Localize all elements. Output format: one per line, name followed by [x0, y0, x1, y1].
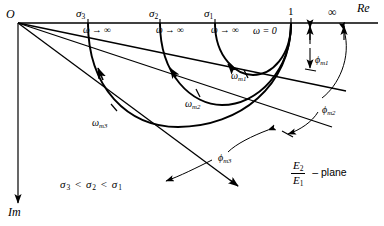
cond-sub-2: 2	[92, 183, 97, 192]
sigma-1-subscript: 1	[209, 12, 213, 21]
plane-fraction-numerator: E2	[291, 160, 305, 174]
omega-inf-label-1: ω → ∞	[211, 26, 239, 36]
omega-m2-label: ωm2	[185, 99, 200, 110]
plane-fraction-denominator: E1	[291, 174, 305, 188]
omega-m1-label: ωm1	[231, 71, 246, 82]
denominator-symbol: E	[293, 174, 300, 186]
phi-m2-subscript: m2	[327, 109, 335, 116]
numerator-subscript: 2	[300, 164, 304, 173]
infinity-arrows	[310, 26, 344, 40]
imaginary-axis-label: Im	[8, 206, 21, 218]
omega-m3-symbol: ω	[92, 117, 99, 128]
origin-label: O	[6, 8, 15, 20]
omega-inf-label-2: ω → ∞	[156, 26, 184, 36]
cond-lt-1: <	[75, 178, 82, 190]
omega-m2-subscript: m2	[192, 103, 200, 110]
infinity-label: ∞	[328, 6, 337, 18]
real-axis-label: Re	[357, 2, 370, 14]
phi-m1-label: ϕm1	[315, 55, 329, 66]
phi-m3-label: ϕm3	[218, 153, 232, 164]
sigma-2-subscript: 2	[154, 12, 158, 21]
phi-m2-label: ϕm2	[322, 105, 336, 116]
omega-m3-subscript: m3	[99, 122, 107, 129]
sigma-ordering-condition: σ3 < σ2 < σ1	[60, 179, 123, 191]
omega-m1-symbol: ω	[231, 70, 238, 81]
cond-sub-3: 3	[66, 183, 71, 192]
sigma-3-subscript: 3	[81, 12, 85, 21]
omega-m2-symbol: ω	[185, 98, 192, 109]
plane-label: E2 E1 – plane	[291, 160, 347, 188]
cond-lt-2: <	[101, 178, 108, 190]
omega-m3-label: ωm3	[92, 118, 107, 129]
omega-m1-subscript: m1	[238, 75, 246, 82]
numerator-symbol: E	[293, 159, 300, 171]
sigma-3-label: σ3	[76, 8, 85, 20]
phi-m3-subscript: m3	[223, 157, 231, 164]
phi-m3-angle-indicator	[166, 130, 268, 181]
unit-point-label: 1	[288, 6, 294, 17]
denominator-subscript: 1	[300, 179, 304, 188]
omega-zero-label: ω = 0	[253, 26, 277, 36]
phi-m1-subscript: m1	[320, 59, 328, 66]
cond-sub-1: 1	[118, 183, 123, 192]
plane-suffix: – plane	[312, 166, 346, 178]
plane-fraction: E2 E1	[291, 160, 305, 188]
sigma-1-label: σ1	[204, 8, 213, 20]
sigma-2-label: σ2	[149, 8, 158, 20]
figure-canvas: O Re Im 1 ∞ σ3 σ2 σ1 ω → ∞ ω → ∞ ω → ∞ ω…	[0, 0, 384, 226]
omega-inf-label-3: ω → ∞	[83, 26, 111, 36]
